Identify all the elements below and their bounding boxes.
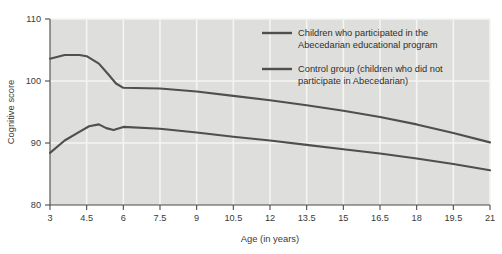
x-tick-label: 12 (265, 213, 275, 223)
x-tick-label: 10.5 (224, 213, 242, 223)
x-axis-title: Age (in years) (241, 233, 299, 244)
x-tick-label: 15 (338, 213, 348, 223)
x-tick-label: 18 (412, 213, 422, 223)
cognitive-score-chart: 34.567.5910.51213.51516.51819.521 809010… (0, 0, 502, 254)
legend-label-2: Control group (children who did not (298, 64, 443, 74)
x-tick-label: 3 (47, 213, 52, 223)
y-tick-label: 90 (31, 138, 41, 148)
x-tick-label: 6 (121, 213, 126, 223)
legend-label-2: participate in Abecedarian) (298, 76, 408, 86)
x-tick-label: 13.5 (298, 213, 316, 223)
y-axis-tick-labels: 8090100110 (26, 14, 41, 210)
x-tick-label: 9 (194, 213, 199, 223)
y-tick-label: 80 (31, 200, 41, 210)
y-axis-title: Cognitive score (5, 80, 16, 145)
y-tick-label: 110 (26, 14, 41, 24)
x-axis-tick-labels: 34.567.5910.51213.51516.51819.521 (47, 213, 495, 223)
x-tick-label: 16.5 (371, 213, 389, 223)
x-tick-label: 21 (485, 213, 495, 223)
chart-canvas: 34.567.5910.51213.51516.51819.521 809010… (0, 0, 502, 254)
x-tick-label: 19.5 (444, 213, 462, 223)
legend-label-1: Children who participated in the (298, 28, 428, 38)
x-tick-label: 7.5 (154, 213, 167, 223)
y-tick-label: 100 (26, 76, 41, 86)
x-tick-label: 4.5 (80, 213, 93, 223)
legend-label-1: Abecedarian educational program (298, 40, 438, 50)
